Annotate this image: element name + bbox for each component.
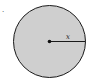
circle-diagram: x <box>0 0 90 80</box>
center-point <box>48 40 52 44</box>
radius-label: x <box>66 33 70 41</box>
